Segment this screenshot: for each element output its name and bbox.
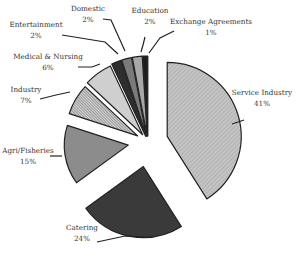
slice-label-value: 6% xyxy=(13,62,83,73)
slice-label: Education2% xyxy=(132,5,169,27)
slice-label-value: 2% xyxy=(71,14,105,25)
slice-label: Entertainment2% xyxy=(9,19,62,41)
slice-label-value: 24% xyxy=(66,233,98,244)
slice-label-value: 2% xyxy=(132,16,169,27)
slice-label-name: Industry xyxy=(11,84,42,95)
pie-slices xyxy=(64,56,241,238)
leader-line xyxy=(103,19,125,51)
slice-label: Service Industry41% xyxy=(232,87,292,109)
slice-label-name: Agri/Fisheries xyxy=(2,145,53,156)
slice-label-value: 7% xyxy=(11,95,42,106)
slice-label: Domestic2% xyxy=(71,3,105,25)
slice-label-name: Education xyxy=(132,5,169,16)
slice-label-name: Medical & Nursing xyxy=(13,51,83,62)
slice-label: Exchange Agreements1% xyxy=(170,16,252,38)
slice-label-value: 15% xyxy=(2,156,53,167)
slice-label: Industry7% xyxy=(11,84,42,106)
pie-slice-agri-fisheries xyxy=(64,125,128,182)
slice-label-name: Catering xyxy=(66,222,98,233)
slice-label-value: 41% xyxy=(232,98,292,109)
slice-label-name: Service Industry xyxy=(232,87,292,98)
slice-label-name: Exchange Agreements xyxy=(170,16,252,27)
slice-label-name: Domestic xyxy=(71,3,105,14)
slice-label: Catering24% xyxy=(66,222,98,244)
pie-slice-catering xyxy=(86,167,181,238)
slice-label: Agri/Fisheries15% xyxy=(2,145,53,167)
slice-label-value: 1% xyxy=(170,27,252,38)
slice-label: Medical & Nursing6% xyxy=(13,51,83,73)
slice-label-name: Entertainment xyxy=(9,19,62,30)
pie-slice-service-industry xyxy=(167,62,241,198)
leader-line xyxy=(40,92,70,99)
leader-line xyxy=(141,37,145,52)
leader-line xyxy=(97,236,145,242)
slice-label-value: 2% xyxy=(9,30,62,41)
